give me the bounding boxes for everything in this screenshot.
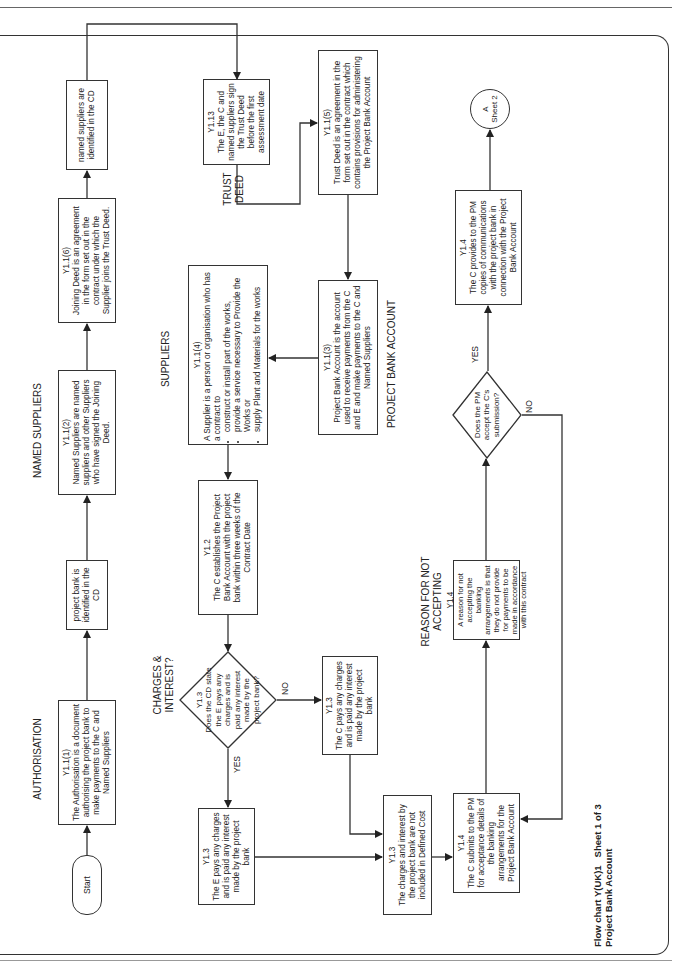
offpage-connector-a[interactable]: A Sheet 2 — [470, 89, 510, 129]
node-text: The E, the C and named suppliers sign th… — [217, 83, 267, 161]
flowchart-canvas: AUTHORISATION NAMED SUPPLIERS TRUST DEED… — [0, 0, 686, 969]
title-line-2: Project Bank Account — [603, 707, 614, 947]
node-ref: Y1.4 — [459, 239, 469, 256]
node-project-bank-cd: project bank is identified in the CD — [66, 560, 108, 630]
edge-label-no: NO — [524, 400, 534, 413]
node-text: named suppliers are identified in the CD — [77, 84, 97, 166]
node-trust-deed-sign: Y1.13 The E, the C and named suppliers s… — [203, 79, 270, 165]
node-text: The C provides to the PM copies of commu… — [469, 194, 519, 301]
node-text: The C pays any charges and is paid any i… — [335, 660, 375, 751]
section-label-authorisation: AUTHORISATION — [32, 699, 44, 819]
node-text: The C submits to the PM for acceptance d… — [467, 797, 517, 889]
section-label-named-suppliers: NAMED SUPPLIERS — [32, 368, 44, 493]
node-text: project bank is identified in the CD — [72, 564, 102, 626]
node-ref: Y1.1(5) — [323, 109, 333, 136]
node-text: Does the CD state the E pays any charges… — [204, 667, 261, 733]
node-text: The charges and interest by the project … — [398, 799, 428, 911]
node-ref: Y1.2 — [203, 539, 213, 556]
connector-label: Sheet 2 — [490, 95, 499, 123]
node-text: Trust Deed is an agreement in the form s… — [333, 54, 373, 191]
edge-label-no: NO — [280, 682, 290, 695]
supplier-bullet: provide a service necessary to Provide t… — [233, 269, 253, 432]
node-text: A reason for not accepting the banking a… — [456, 564, 528, 636]
node-ref: Y1.1(2) — [62, 419, 72, 446]
flowchart-title: Flow chart Y(UK)1 Sheet 1 of 3 Project B… — [592, 707, 614, 947]
node-text: Joining Deed is an agreement in the form… — [72, 202, 112, 319]
node-c-pays: Y1.3 The C pays any charges and is paid … — [322, 656, 378, 755]
node-text: Named Suppliers are named suppliers and … — [72, 374, 112, 491]
node-named-suppliers: Y1.1(2) Named Suppliers are named suppli… — [58, 370, 116, 495]
node-joining-deed: Y1.1(6) Joining Deed is an agreement in … — [58, 198, 116, 323]
node-c-submits: Y1.4 The C submits to the PM for accepta… — [453, 793, 520, 893]
node-text: Project Bank Account is the account used… — [333, 284, 373, 431]
node-ref: Y1.3 — [388, 847, 398, 864]
node-not-defined-cost: Y1.3 The charges and interest by the pro… — [383, 795, 432, 915]
node-ref: Y1.4 — [446, 592, 456, 609]
start-terminator: Start — [72, 855, 102, 915]
edge-label-yes: YES — [470, 346, 480, 363]
node-reason-not-accepting: Y1.4 A reason for not accepting the bank… — [453, 560, 520, 640]
node-text: The Authorisation is a document authoris… — [72, 704, 112, 821]
node-ref: Y1.1(4) — [193, 342, 203, 369]
start-label: Start — [82, 876, 92, 894]
section-label-suppliers: SUPPLIERS — [160, 319, 172, 399]
node-text: Does the PM accept the C's submission? — [473, 389, 502, 441]
node-ref: Y1.3 — [325, 697, 335, 714]
node-ref: Y1.3 — [195, 692, 205, 708]
node-ref: Y1.3 — [202, 848, 212, 865]
connector-letter: A — [481, 106, 490, 111]
supplier-bullet: construct or install part of the works, — [223, 269, 233, 432]
node-named-suppliers-cd: named suppliers are identified in the CD — [66, 80, 108, 170]
section-label-trust-deed: TRUST DEED — [222, 169, 246, 209]
node-ref: Y1.1(6) — [62, 247, 72, 274]
supplier-bullet-list: construct or install part of the works, … — [223, 269, 263, 441]
decision-pm-accept: Does the PM accept the C's submission? — [452, 371, 522, 459]
node-project-bank-account: Y1.1(3) Project Bank Account is the acco… — [318, 280, 378, 435]
node-ref: Y1.13 — [207, 111, 217, 132]
node-ref: Y1.4 — [457, 835, 467, 852]
section-label-charges-interest: CHARGES & INTEREST? — [152, 645, 176, 725]
node-ref: Y1.1(1) — [62, 749, 72, 776]
section-label-project-bank-account: PROJECT BANK ACCOUNT — [386, 279, 398, 449]
node-ref: Y1.1(3) — [323, 344, 333, 371]
node-text: The C establishes the Project Bank Accou… — [213, 484, 253, 611]
title-line-1: Flow chart Y(UK)1 Sheet 1 of 3 — [592, 707, 603, 947]
node-authorisation: Y1.1(1) The Authorisation is a document … — [58, 700, 116, 825]
node-trust-deed-definition: Y1.1(5) Trust Deed is an agreement in th… — [318, 50, 378, 195]
node-e-pays: Y1.3 The E pays any charges and is paid … — [198, 808, 255, 905]
node-establish-account: Y1.2 The C establishes the Project Bank … — [198, 480, 258, 615]
node-c-provides: Y1.4 The C provides to the PM copies of … — [455, 190, 522, 305]
node-text: The E pays any charges and is paid any i… — [212, 812, 252, 901]
edge-label-yes: YES — [232, 756, 242, 773]
supplier-bullet: supply Plant and Materials for the works — [253, 269, 263, 432]
node-text: A Supplier is a person or organisation w… — [203, 269, 223, 441]
decision-charges: Y1.3 Does the CD state the E pays any ch… — [179, 651, 277, 749]
node-supplier-definition: Y1.1(4) A Supplier is a person or organi… — [188, 265, 268, 445]
section-label-reason-not-accepting: REASON FOR NOT ACCEPTING — [420, 544, 444, 659]
